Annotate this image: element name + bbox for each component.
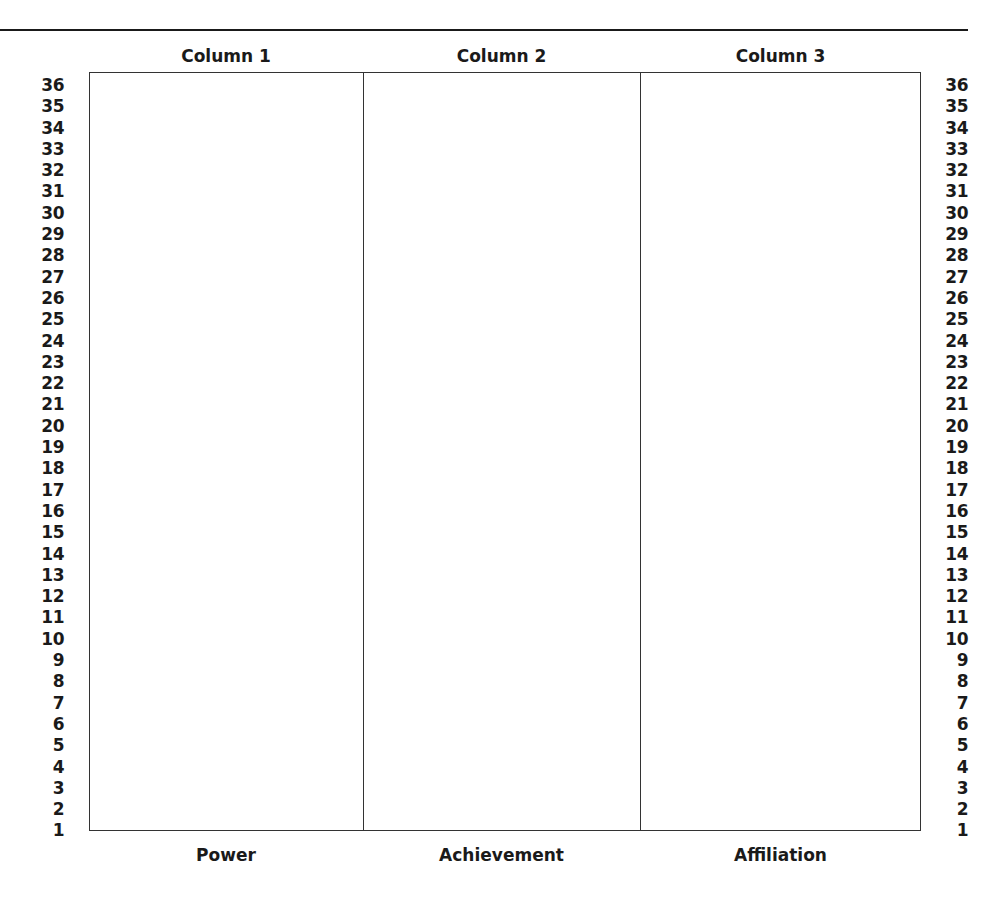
- scale-tick-label: 23: [41, 352, 64, 373]
- scale-tick-label: 3: [957, 778, 968, 799]
- scale-tick-label: 20: [41, 416, 64, 437]
- scale-tick-label: 9: [53, 650, 64, 671]
- scale-tick-label: 4: [53, 757, 64, 778]
- scale-tick-label: 1: [957, 820, 968, 841]
- scale-tick-label: 20: [945, 416, 968, 437]
- scale-tick-label: 23: [945, 352, 968, 373]
- scale-tick-label: 16: [41, 501, 64, 522]
- column-2-header: Column 2: [363, 46, 640, 66]
- scale-tick-label: 27: [41, 267, 64, 288]
- column-1-plot-area[interactable]: [90, 73, 364, 830]
- scale-tick-label: 19: [945, 437, 968, 458]
- scale-tick-label: 35: [945, 96, 968, 117]
- scale-tick-label: 1: [53, 820, 64, 841]
- scale-tick-label: 25: [41, 309, 64, 330]
- scale-tick-label: 30: [945, 203, 968, 224]
- scale-tick-label: 25: [945, 309, 968, 330]
- scale-tick-label: 5: [53, 735, 64, 756]
- scale-tick-label: 14: [945, 544, 968, 565]
- scale-tick-label: 7: [53, 693, 64, 714]
- scale-tick-label: 13: [945, 565, 968, 586]
- scale-tick-label: 22: [41, 373, 64, 394]
- scale-tick-label: 13: [41, 565, 64, 586]
- scale-tick-label: 2: [53, 799, 64, 820]
- column-2-label-achievement: Achievement: [363, 845, 640, 865]
- scale-tick-label: 5: [957, 735, 968, 756]
- scale-tick-label: 24: [41, 331, 64, 352]
- right-score-scale: 3635343332313029282726252423222120191817…: [942, 75, 968, 842]
- scale-tick-label: 34: [945, 118, 968, 139]
- scale-tick-label: 32: [41, 160, 64, 181]
- scale-tick-label: 17: [945, 480, 968, 501]
- scale-tick-label: 8: [53, 671, 64, 692]
- scale-tick-label: 29: [945, 224, 968, 245]
- scale-tick-label: 11: [945, 607, 968, 628]
- scale-tick-label: 26: [945, 288, 968, 309]
- scale-tick-label: 16: [945, 501, 968, 522]
- scale-tick-label: 2: [957, 799, 968, 820]
- scale-tick-label: 3: [53, 778, 64, 799]
- scale-tick-label: 8: [957, 671, 968, 692]
- scale-tick-label: 9: [957, 650, 968, 671]
- scale-tick-label: 24: [945, 331, 968, 352]
- scale-tick-label: 32: [945, 160, 968, 181]
- scale-tick-label: 11: [41, 607, 64, 628]
- left-score-scale: 3635343332313029282726252423222120191817…: [38, 75, 64, 842]
- scale-tick-label: 7: [957, 693, 968, 714]
- scale-tick-label: 15: [41, 522, 64, 543]
- scale-tick-label: 36: [945, 75, 968, 96]
- scale-tick-label: 29: [41, 224, 64, 245]
- scale-tick-label: 18: [945, 458, 968, 479]
- scale-tick-label: 35: [41, 96, 64, 117]
- scale-tick-label: 17: [41, 480, 64, 501]
- scale-tick-label: 22: [945, 373, 968, 394]
- column-1-label-power: Power: [89, 845, 363, 865]
- score-grid: [89, 72, 921, 831]
- top-divider-rule: [0, 29, 968, 31]
- scale-tick-label: 14: [41, 544, 64, 565]
- scale-tick-label: 15: [945, 522, 968, 543]
- column-3-header: Column 3: [640, 46, 921, 66]
- scale-tick-label: 34: [41, 118, 64, 139]
- scale-tick-label: 30: [41, 203, 64, 224]
- scale-tick-label: 28: [945, 245, 968, 266]
- scale-tick-label: 19: [41, 437, 64, 458]
- scale-tick-label: 31: [41, 181, 64, 202]
- scale-tick-label: 26: [41, 288, 64, 309]
- scale-tick-label: 28: [41, 245, 64, 266]
- column-3-label-affiliation: Affiliation: [640, 845, 921, 865]
- column-3-plot-area[interactable]: [641, 73, 920, 830]
- column-1-header: Column 1: [89, 46, 363, 66]
- scale-tick-label: 31: [945, 181, 968, 202]
- column-2-plot-area[interactable]: [364, 73, 641, 830]
- scale-tick-label: 10: [945, 629, 968, 650]
- scale-tick-label: 12: [945, 586, 968, 607]
- scale-tick-label: 4: [957, 757, 968, 778]
- scale-tick-label: 27: [945, 267, 968, 288]
- scale-tick-label: 18: [41, 458, 64, 479]
- scale-tick-label: 10: [41, 629, 64, 650]
- scale-tick-label: 12: [41, 586, 64, 607]
- scale-tick-label: 6: [957, 714, 968, 735]
- scale-tick-label: 33: [945, 139, 968, 160]
- scale-tick-label: 21: [41, 394, 64, 415]
- scale-tick-label: 36: [41, 75, 64, 96]
- scale-tick-label: 33: [41, 139, 64, 160]
- scale-tick-label: 21: [945, 394, 968, 415]
- scale-tick-label: 6: [53, 714, 64, 735]
